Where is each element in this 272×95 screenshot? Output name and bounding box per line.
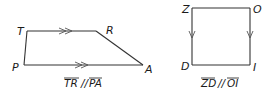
geometry-diagram: T R P A TR // PA Z O (0, 0, 272, 95)
segment-RA (96, 31, 143, 65)
vertex-label-P: P (12, 61, 19, 74)
trapezoid-figure: T R P A TR // PA (12, 24, 153, 89)
segment-PT (24, 31, 27, 65)
caption-segment-OI: OI (227, 77, 238, 89)
vertex-label-Z: Z (181, 3, 190, 16)
caption-segment-ZD: ZD (200, 77, 216, 89)
caption-parallel-symbol: // (217, 77, 227, 89)
parallel-statement-caption: TR // PA (64, 77, 102, 89)
vertex-label-O: O (253, 3, 262, 16)
caption-segment-TR: TR (64, 77, 78, 89)
vertex-label-R: R (106, 24, 114, 37)
parallel-statement-caption: ZD // OI (200, 77, 239, 89)
caption-segment-PA: PA (89, 77, 102, 89)
vertex-label-T: T (17, 25, 25, 38)
vertex-label-I: I (253, 61, 256, 74)
diagram-stage: T R P A TR // PA Z O (0, 0, 272, 95)
vertex-label-A: A (144, 63, 153, 76)
vertex-label-D: D (181, 60, 189, 73)
rectangle-figure: Z O D I ZD // OI (181, 3, 262, 89)
